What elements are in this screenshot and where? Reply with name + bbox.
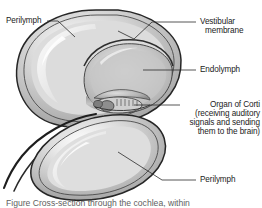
label-organ-of-corti-line1: Organ of Corti — [182, 100, 260, 109]
organ-of-corti-cell-cluster — [94, 100, 103, 107]
figure-caption: Figure Cross-section through the cochlea… — [6, 198, 256, 208]
label-endolymph: Endolymph — [200, 65, 240, 74]
figure-canvas: Perilymph Vestibular membrane Endolymph … — [0, 0, 262, 208]
label-organ-of-corti-line2: (receiving auditory — [182, 109, 260, 118]
lower-chamber-group — [4, 114, 165, 200]
label-organ-of-corti-line4: them to the brain) — [182, 127, 260, 136]
label-perilymph-bottom: Perilymph — [200, 175, 236, 184]
label-organ-of-corti-line3: signals and sending — [182, 118, 260, 127]
label-vestibular-membrane-line1: Vestibular — [200, 17, 235, 26]
upper-chamber-group — [17, 10, 181, 128]
label-vestibular-membrane-line2: membrane — [205, 26, 243, 35]
label-perilymph-top: Perilymph — [6, 16, 42, 25]
